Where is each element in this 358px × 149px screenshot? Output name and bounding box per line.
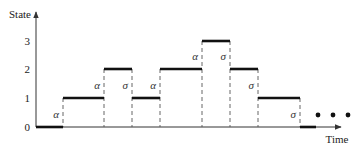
alpha-label: α <box>53 108 59 120</box>
continuation-dots <box>316 113 351 118</box>
y-axis-label: State <box>9 8 31 20</box>
y-tick-1: 1 <box>25 92 31 104</box>
y-tick-3: 3 <box>25 35 31 47</box>
y-tick-0: 0 <box>25 121 31 133</box>
sigma-label: σ <box>249 79 255 91</box>
sigma-label: σ <box>123 79 129 91</box>
sigma-label: σ <box>221 50 227 62</box>
alpha-label: α <box>94 79 100 91</box>
alpha-label: α <box>150 79 156 91</box>
state-time-diagram: State Time 0 1 2 3 αασαασσσ <box>0 0 358 149</box>
sigma-label: σ <box>291 108 297 120</box>
state-steps <box>36 41 316 127</box>
alpha-label: α <box>192 50 198 62</box>
x-axis-label: Time <box>326 133 349 145</box>
y-tick-2: 2 <box>25 63 31 75</box>
transition-labels: αασαασσσ <box>53 50 296 120</box>
